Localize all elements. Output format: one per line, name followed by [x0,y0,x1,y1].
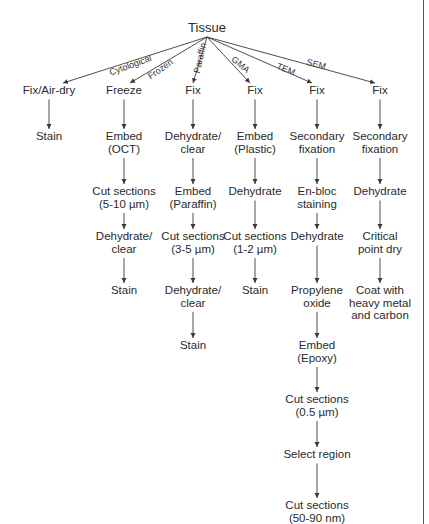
step-label-line: (Plastic) [234,143,276,156]
step-label-line: fixation [353,143,408,156]
step-label-line: Dehydrate [290,230,343,243]
step-node: Cut sections(0.5 µm) [285,393,348,418]
workflow-diagram: Tissue CytologicalFrozenParaffinGMATEMSE… [0,0,429,524]
step-label-line: Embed [169,185,216,198]
step-node: En-blocstaining [297,185,337,210]
step-label-line: Stain [111,284,137,297]
step-label-line: Cut sections [285,393,348,406]
step-node: Dehydrate/clear [165,284,221,309]
step-label-line: Stain [36,130,62,143]
step-label-line: Secondary [353,130,408,143]
step-node: Fix/Air-dry [23,84,75,97]
step-label-line: Freeze [106,84,142,97]
step-node: Dehydrate [228,185,281,198]
step-label-line: Fix [372,84,387,97]
step-node: Fix [309,84,324,97]
step-label-line: Embed [106,130,142,143]
step-label-line: and carbon [349,309,411,322]
step-node: Embed(Paraffin) [169,185,216,210]
step-node: Dehydrate [353,185,406,198]
step-label-line: point dry [358,243,402,256]
step-label-line: Select region [283,448,350,461]
edges-layer [0,0,429,524]
step-label-line: Fix/Air-dry [23,84,75,97]
root-node-tissue: Tissue [188,22,226,35]
step-label-line: clear [165,297,221,310]
step-label-line: (0.5 µm) [285,406,348,419]
step-label-line: Dehydrate [353,185,406,198]
step-node: Dehydrate [290,230,343,243]
step-label-line: (3-5 µm) [161,243,224,256]
step-label-line: Propylene [291,284,343,297]
step-label-line: Embed [234,130,276,143]
step-label-line: (Epoxy) [297,352,337,365]
step-node: Dehydrate/clear [96,230,152,255]
step-label-line: Cut sections [223,230,286,243]
step-label-line: (1-2 µm) [223,243,286,256]
step-label-line: heavy metal [349,297,411,310]
step-node: Embed(OCT) [106,130,142,155]
step-label-line: Embed [297,339,337,352]
step-node: Propyleneoxide [291,284,343,309]
step-label-line: clear [96,243,152,256]
step-node: Embed(Plastic) [234,130,276,155]
step-node: Embed(Epoxy) [297,339,337,364]
step-node: Fix [247,84,262,97]
step-node: Cut sections(1-2 µm) [223,230,286,255]
step-label-line: (Paraffin) [169,198,216,211]
step-label-line: Stain [242,284,268,297]
step-node: Select region [283,448,350,461]
step-label-line: (OCT) [106,143,142,156]
step-label-line: Secondary [290,130,345,143]
step-node: Fix [372,84,387,97]
step-label-line: fixation [290,143,345,156]
step-label-line: (50-90 nm) [285,512,348,524]
step-label-line: Coat with [349,284,411,297]
step-node: Cut sections(50-90 nm) [285,499,348,524]
step-label-line: Dehydrate [228,185,281,198]
step-node: Stain [36,130,62,143]
step-node: Stain [180,339,206,352]
step-label-line: Cut sections [92,185,155,198]
step-label-line: Cut sections [285,499,348,512]
step-node: Criticalpoint dry [358,230,402,255]
step-node: Freeze [106,84,142,97]
step-node: Cut sections(3-5 µm) [161,230,224,255]
step-label-line: Cut sections [161,230,224,243]
page-border [423,0,424,524]
step-label-line: Fix [309,84,324,97]
step-label-line: oxide [291,297,343,310]
step-label-line: Dehydrate/ [165,130,221,143]
step-label-line: staining [297,198,337,211]
step-node: Cut sections(5-10 µm) [92,185,155,210]
step-label-line: Dehydrate/ [96,230,152,243]
step-label-line: Fix [185,84,200,97]
step-node: Fix [185,84,200,97]
step-label-line: Dehydrate/ [165,284,221,297]
step-node: Coat withheavy metaland carbon [349,284,411,322]
step-node: Secondaryfixation [353,130,408,155]
step-node: Stain [111,284,137,297]
step-label-line: Stain [180,339,206,352]
step-label-line: Fix [247,84,262,97]
step-label-line: Critical [358,230,402,243]
step-label-line: En-bloc [297,185,337,198]
step-node: Stain [242,284,268,297]
step-node: Dehydrate/clear [165,130,221,155]
step-label-line: clear [165,143,221,156]
root-label: Tissue [188,22,226,35]
step-label-line: (5-10 µm) [92,198,155,211]
arrow [207,37,312,83]
step-node: Secondaryfixation [290,130,345,155]
